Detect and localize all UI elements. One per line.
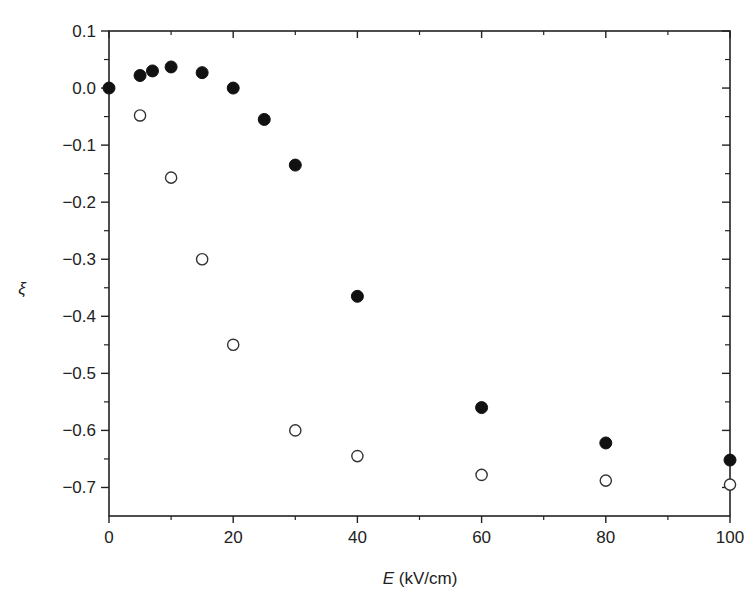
plot-border	[109, 31, 730, 516]
filled-data-point	[289, 159, 301, 171]
y-tick-label: −0.6	[62, 421, 96, 440]
filled-data-point	[476, 402, 488, 414]
filled-data-point	[146, 65, 158, 77]
open-data-point	[476, 469, 487, 480]
filled-data-point	[227, 82, 239, 94]
x-axis-title: E (kV/cm)	[383, 569, 458, 588]
y-tick-label: −0.1	[62, 136, 96, 155]
data-points	[103, 61, 736, 490]
x-tick-label: 0	[104, 528, 113, 547]
filled-data-point	[600, 437, 612, 449]
x-axis: 020406080100	[104, 31, 744, 547]
open-data-point	[600, 475, 611, 486]
y-tick-label: 0.0	[72, 79, 96, 98]
open-data-point	[352, 450, 363, 461]
y-tick-label: −0.5	[62, 364, 96, 383]
y-axis: 0.10.0−0.1−0.2−0.3−0.4−0.5−0.6−0.7	[62, 22, 730, 497]
x-tick-label: 60	[472, 528, 491, 547]
y-tick-label: −0.7	[62, 478, 96, 497]
y-tick-label: −0.4	[62, 307, 96, 326]
y-tick-label: −0.3	[62, 250, 96, 269]
x-tick-label: 100	[716, 528, 744, 547]
x-tick-label: 40	[348, 528, 367, 547]
filled-data-point	[165, 61, 177, 73]
filled-data-point	[103, 82, 115, 94]
open-data-point	[197, 254, 208, 265]
open-data-point	[228, 339, 239, 350]
open-data-point	[724, 479, 735, 490]
y-tick-label: 0.1	[72, 22, 96, 41]
open-data-point	[134, 110, 145, 121]
scatter-chart: 020406080100 0.10.0−0.1−0.2−0.3−0.4−0.5−…	[0, 0, 756, 602]
x-tick-label: 80	[596, 528, 615, 547]
filled-data-point	[351, 290, 363, 302]
y-tick-label: −0.2	[62, 193, 96, 212]
plot-frame	[109, 31, 730, 516]
open-data-point	[290, 425, 301, 436]
x-tick-label: 20	[224, 528, 243, 547]
filled-data-point	[724, 454, 736, 466]
open-data-point	[166, 172, 177, 183]
filled-data-point	[134, 70, 146, 82]
y-axis-title: ξ	[18, 279, 27, 298]
filled-data-point	[258, 113, 270, 125]
filled-data-point	[196, 67, 208, 79]
